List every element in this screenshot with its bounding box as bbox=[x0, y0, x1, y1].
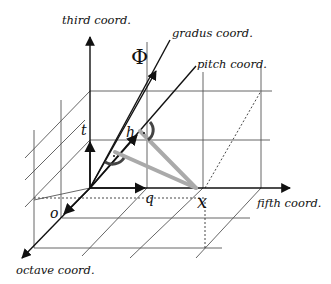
grid-lines bbox=[25, 42, 272, 258]
coordinate-diagram: third coord. gradus coord. pitch coord. … bbox=[0, 0, 331, 284]
octave-coord-label: octave coord. bbox=[16, 263, 95, 277]
pitch-coord-label: pitch coord. bbox=[197, 57, 267, 71]
h-label: h bbox=[126, 124, 135, 140]
angle-dot bbox=[143, 132, 145, 134]
x-label: x bbox=[197, 191, 207, 212]
o-vector bbox=[64, 188, 90, 214]
fifth-coord-label: fifth coord. bbox=[256, 196, 321, 210]
o-label: o bbox=[50, 205, 58, 221]
phi-vector bbox=[90, 71, 156, 188]
t-label: t bbox=[81, 122, 87, 138]
third-coord-label: third coord. bbox=[62, 13, 131, 27]
h-vector bbox=[90, 135, 137, 188]
phi-symbol: Φ bbox=[131, 45, 148, 69]
gradus-coord-label: gradus coord. bbox=[172, 26, 253, 40]
q-label: q bbox=[145, 190, 154, 206]
angle-dot bbox=[113, 155, 115, 157]
basis-vectors bbox=[64, 135, 145, 214]
